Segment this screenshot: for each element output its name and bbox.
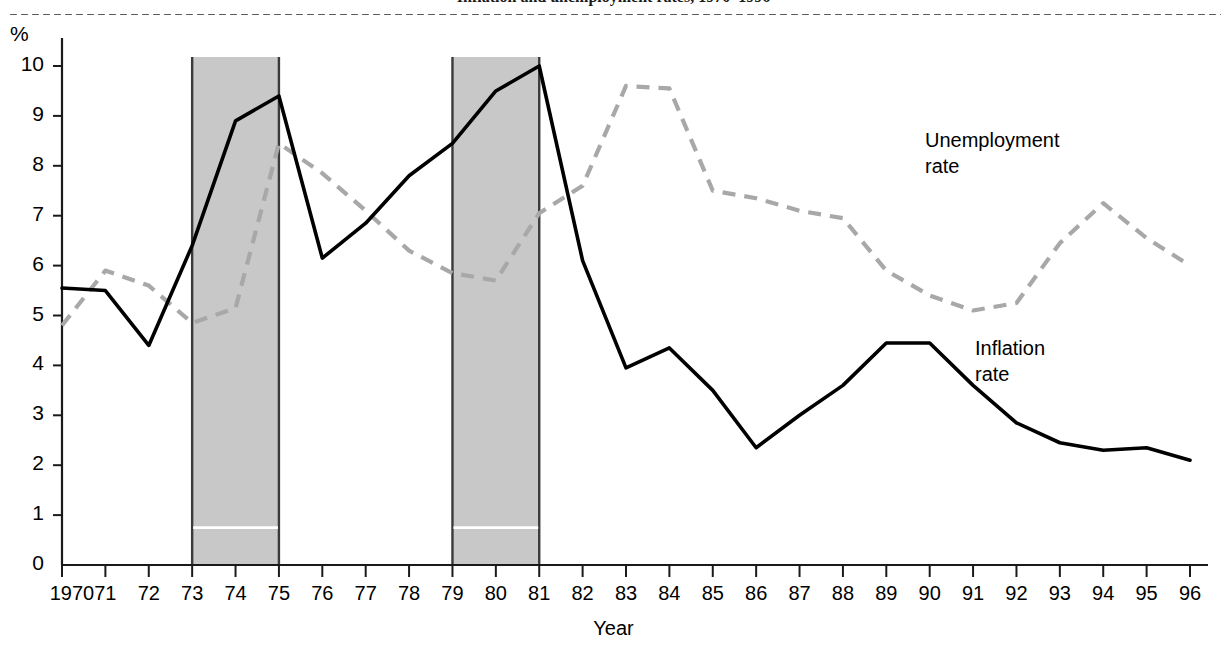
recession-band bbox=[192, 57, 279, 565]
unemployment-annotation-line2: rate bbox=[925, 154, 1060, 180]
x-tick-label: 83 bbox=[606, 582, 646, 605]
x-tick-label: 73 bbox=[172, 582, 212, 605]
x-tick-label: 96 bbox=[1170, 582, 1210, 605]
unemployment-annotation-line1: Unemployment bbox=[925, 128, 1060, 154]
x-axis-title: Year bbox=[0, 617, 1227, 640]
x-tick-label: 85 bbox=[693, 582, 733, 605]
x-tick-label: 86 bbox=[736, 582, 776, 605]
inflation-annotation-line1: Inflation bbox=[975, 336, 1045, 362]
y-tick-label: 7 bbox=[4, 202, 44, 226]
inflation-annotation: Inflation rate bbox=[975, 336, 1045, 387]
x-tick-label: 95 bbox=[1127, 582, 1167, 605]
x-tick-label: 80 bbox=[476, 582, 516, 605]
y-tick-label: 6 bbox=[4, 252, 44, 276]
x-tick-label: 81 bbox=[519, 582, 559, 605]
inflation-annotation-line2: rate bbox=[975, 362, 1045, 388]
y-tick-label: 10 bbox=[4, 52, 44, 76]
x-tick-label: 82 bbox=[563, 582, 603, 605]
x-tick-label: 88 bbox=[823, 582, 863, 605]
y-tick-label: 4 bbox=[4, 351, 44, 375]
x-tick-label: 75 bbox=[259, 582, 299, 605]
recession-bands bbox=[192, 57, 539, 565]
x-tick-label: 76 bbox=[302, 582, 342, 605]
y-tick-label: 1 bbox=[4, 501, 44, 525]
x-tick-label: 92 bbox=[996, 582, 1036, 605]
x-tick-label: 77 bbox=[346, 582, 386, 605]
x-tick-label: 72 bbox=[129, 582, 169, 605]
x-tick-label: 79 bbox=[432, 582, 472, 605]
x-tick-label: 94 bbox=[1083, 582, 1123, 605]
x-tick-label: 89 bbox=[866, 582, 906, 605]
x-tick-label: 71 bbox=[85, 582, 125, 605]
y-tick-label: 9 bbox=[4, 102, 44, 126]
x-tick-label: 93 bbox=[1040, 582, 1080, 605]
y-tick-label: 3 bbox=[4, 401, 44, 425]
x-tick-label: 91 bbox=[953, 582, 993, 605]
chart-plot-area bbox=[0, 0, 1227, 661]
x-tick-label: 87 bbox=[780, 582, 820, 605]
unemployment-annotation: Unemployment rate bbox=[925, 128, 1060, 179]
x-tick-label: 90 bbox=[910, 582, 950, 605]
y-tick-label: 8 bbox=[4, 152, 44, 176]
y-tick-label: 0 bbox=[4, 551, 44, 575]
x-tick-label: 84 bbox=[649, 582, 689, 605]
x-tick-label: 74 bbox=[216, 582, 256, 605]
recession-band bbox=[452, 57, 539, 565]
x-tick-label: 78 bbox=[389, 582, 429, 605]
y-tick-label: 5 bbox=[4, 302, 44, 326]
y-tick-label: 2 bbox=[4, 451, 44, 475]
